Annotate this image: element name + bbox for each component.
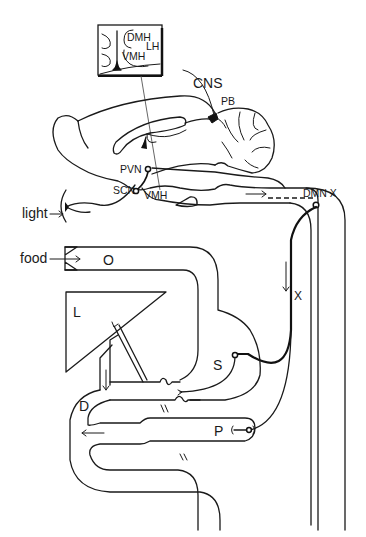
label-stomach: S: [213, 357, 222, 373]
label-cns: CNS: [193, 75, 223, 91]
label-vmh: VMH: [144, 189, 167, 201]
vagus-arrow: [283, 262, 289, 291]
stomach-node: [232, 352, 237, 357]
pvn-node: [145, 166, 150, 171]
inset-label-vmh: VMH: [122, 50, 145, 62]
liver: [66, 292, 166, 372]
spinal-line-b: [306, 188, 345, 530]
vagus-nerve: [236, 207, 316, 363]
label-duodenum: D: [79, 398, 89, 414]
hypothalamus-inset: DMH LH VMH: [98, 25, 162, 76]
bile-duct-2: [110, 335, 118, 385]
duodenum-top: [110, 396, 200, 401]
inset-label-lh: LH: [146, 40, 159, 52]
duodenum-inner: [88, 400, 255, 530]
pvn-pathway: [152, 168, 285, 188]
descending-arrow: [246, 191, 266, 197]
light-label: light: [22, 205, 48, 221]
pancreas-node: [247, 428, 252, 433]
label-scn: SCN: [113, 184, 135, 196]
diagram-canvas: DMH LH VMH: [0, 0, 366, 537]
duodenum-arrow: [82, 430, 104, 436]
label-pb: PB: [221, 95, 235, 107]
food-label: food: [20, 250, 47, 266]
label-oesophagus: O: [103, 252, 114, 268]
label-vagus-x: X: [294, 289, 302, 303]
gallbladder-duct: [114, 325, 147, 382]
spinal-line-a: [290, 203, 311, 525]
label-liver: L: [73, 304, 81, 320]
stomach-lower-border: [110, 378, 180, 384]
scn-node: [133, 188, 138, 193]
oesophagus-tube-inner: [65, 270, 198, 380]
label-pvn: PVN: [120, 163, 142, 175]
label-pancreas: P: [214, 423, 223, 439]
